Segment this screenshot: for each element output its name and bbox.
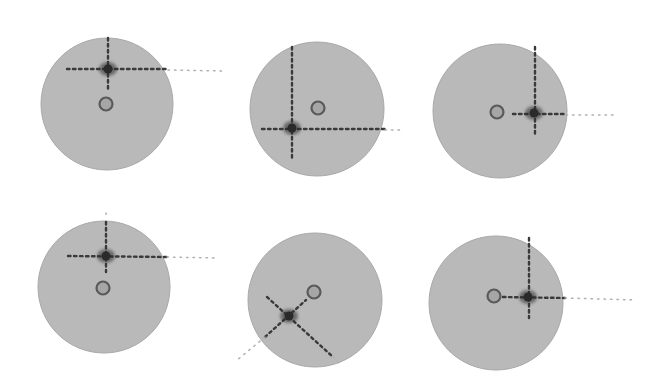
- panel-1: [41, 38, 222, 170]
- center-ring-icon: [488, 290, 501, 303]
- gray-disc: [248, 233, 382, 367]
- panel-3: [433, 44, 615, 178]
- dotted-guide-line: [565, 298, 636, 300]
- center-ring-icon: [308, 286, 321, 299]
- cross-marker-icon: [283, 121, 301, 135]
- panel-5: [236, 233, 382, 367]
- dotted-guide-line: [236, 337, 265, 361]
- panel-2: [250, 42, 400, 176]
- center-ring-icon: [97, 282, 110, 295]
- diagram-canvas: [0, 0, 652, 388]
- center-ring-icon: [312, 102, 325, 115]
- panel-4: [38, 213, 218, 353]
- dotted-guide-line: [68, 256, 167, 257]
- panels-group: [38, 38, 636, 370]
- center-ring-icon: [491, 106, 504, 119]
- cross-marker-icon: [97, 249, 115, 263]
- center-ring-icon: [100, 98, 113, 111]
- cross-marker-icon: [525, 106, 543, 120]
- cross-marker-icon: [519, 290, 537, 304]
- dotted-guide-line: [167, 257, 218, 258]
- panel-6: [429, 236, 636, 370]
- cross-marker-icon: [99, 62, 117, 76]
- cross-marker-icon: [280, 309, 298, 323]
- dotted-guide-line: [168, 70, 222, 71]
